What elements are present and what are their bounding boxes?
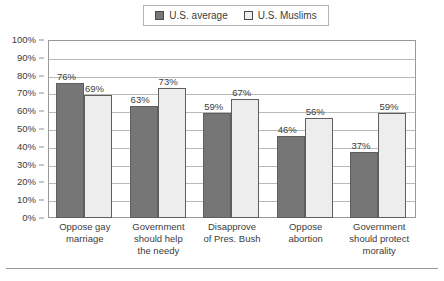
- y-axis: 0% 10% 20% 30% 40% 50% 60% 70% 80% 90% 1…: [0, 40, 44, 218]
- x-axis-label-oppose-abortion: Opposeabortion: [269, 221, 343, 245]
- bar-us-average-oppose-abortion[interactable]: [277, 136, 305, 218]
- light-gray-swatch-icon: [244, 11, 253, 20]
- bar-us-muslims-oppose-gay-marriage[interactable]: [84, 95, 112, 218]
- legend-entry-us-average: U.S. average: [155, 11, 227, 21]
- y-tick-label-50: 50%: [17, 124, 36, 134]
- x-axis: Oppose gaymarriage Governmentshould help…: [48, 221, 416, 267]
- legend-label-us-average: U.S. average: [169, 11, 227, 21]
- y-tick-label-70: 70%: [17, 89, 36, 99]
- bars-layer: 76% 69% 63% 73% 59% 67% 46% 56% 37% 59%: [48, 40, 416, 218]
- y-tick-label-60: 60%: [17, 106, 36, 116]
- bar-label-us-average-oppose-abortion: 46%: [278, 125, 297, 135]
- y-tick-mark-0: [39, 218, 44, 219]
- y-tick-label-20: 20%: [17, 178, 36, 188]
- bar-us-average-oppose-gay-marriage[interactable]: [56, 83, 84, 218]
- y-tick-mark-30: [39, 164, 44, 165]
- bar-label-us-average-government-should-help-the-needy: 63%: [131, 95, 150, 105]
- y-tick-label-0: 0%: [22, 213, 36, 223]
- x-axis-label-government-should-help-the-needy: Governmentshould helpthe needy: [122, 221, 196, 257]
- bar-us-muslims-government-should-help-the-needy[interactable]: [158, 88, 186, 218]
- bar-label-us-average-oppose-gay-marriage: 76%: [57, 72, 76, 82]
- y-tick-label-40: 40%: [17, 142, 36, 152]
- bar-group-disapprove-of-pres-bush: 59% 67%: [195, 40, 269, 218]
- y-tick-label-30: 30%: [17, 160, 36, 170]
- bottom-divider: [6, 268, 438, 269]
- chart-legend: U.S. average U.S. Muslims: [143, 5, 329, 26]
- bar-group-government-should-protect-morality: 37% 59%: [342, 40, 416, 218]
- bar-group-oppose-abortion: 46% 56%: [269, 40, 343, 218]
- bar-label-us-muslims-government-should-help-the-needy: 73%: [159, 77, 178, 87]
- y-tick-label-100: 100%: [12, 35, 36, 45]
- dark-gray-swatch-icon: [155, 11, 164, 20]
- y-tick-mark-90: [39, 57, 44, 58]
- y-tick-label-80: 80%: [17, 71, 36, 81]
- bar-us-muslims-disapprove-of-pres-bush[interactable]: [231, 99, 259, 218]
- bar-group-government-should-help-the-needy: 63% 73%: [122, 40, 196, 218]
- bar-label-us-muslims-disapprove-of-pres-bush: 67%: [232, 88, 251, 98]
- y-tick-mark-20: [39, 182, 44, 183]
- y-tick-mark-60: [39, 111, 44, 112]
- y-tick-mark-70: [39, 93, 44, 94]
- legend-label-us-muslims: U.S. Muslims: [258, 11, 317, 21]
- y-tick-label-10: 10%: [17, 195, 36, 205]
- y-tick-mark-50: [39, 129, 44, 130]
- y-tick-mark-40: [39, 146, 44, 147]
- x-axis-label-disapprove-of-pres-bush: Disapproveof Pres. Bush: [195, 221, 269, 245]
- bar-us-muslims-government-should-protect-morality[interactable]: [378, 113, 406, 218]
- y-tick-mark-80: [39, 75, 44, 76]
- bar-us-average-government-should-help-the-needy[interactable]: [130, 106, 158, 218]
- bar-label-us-muslims-oppose-gay-marriage: 69%: [85, 84, 104, 94]
- y-tick-mark-100: [39, 40, 44, 41]
- bar-label-us-average-disapprove-of-pres-bush: 59%: [204, 102, 223, 112]
- bar-label-us-muslims-government-should-protect-morality: 59%: [379, 102, 398, 112]
- bar-group-oppose-gay-marriage: 76% 69%: [48, 40, 122, 218]
- bar-label-us-muslims-oppose-abortion: 56%: [306, 107, 325, 117]
- bar-us-muslims-oppose-abortion[interactable]: [305, 118, 333, 218]
- x-axis-label-government-should-protect-morality: Governmentshould protectmorality: [342, 221, 416, 257]
- y-tick-mark-10: [39, 200, 44, 201]
- x-axis-label-oppose-gay-marriage: Oppose gaymarriage: [48, 221, 122, 245]
- bar-us-average-government-should-protect-morality[interactable]: [350, 152, 378, 218]
- y-tick-label-90: 90%: [17, 53, 36, 63]
- bar-label-us-average-government-should-protect-morality: 37%: [351, 141, 370, 151]
- legend-entry-us-muslims: U.S. Muslims: [244, 11, 317, 21]
- bar-us-average-disapprove-of-pres-bush[interactable]: [203, 113, 231, 218]
